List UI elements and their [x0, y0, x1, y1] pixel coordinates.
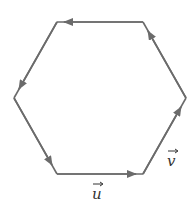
hexagon-edge-top-left [14, 22, 57, 98]
label-u: u [92, 182, 103, 203]
hexagon-edge-bottom-left [14, 98, 57, 174]
label-u-text: u [92, 185, 102, 203]
label-v: v [167, 149, 178, 170]
vector-v-edge [143, 98, 186, 174]
hexagon-edge-top-right [143, 22, 186, 98]
label-v-text: v [167, 152, 176, 170]
hexagon-vector-diagram: u v [0, 0, 193, 214]
